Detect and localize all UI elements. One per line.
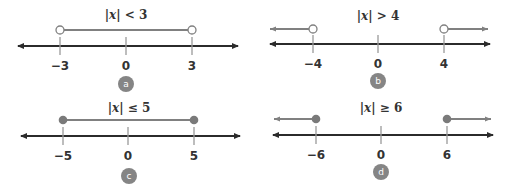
tick-label: 0 xyxy=(122,59,130,73)
badge-label-a: a xyxy=(123,79,129,89)
panel-d: |x| ≥ 6 −6 0 6 d xyxy=(273,101,493,180)
closed-endpoint-icon xyxy=(443,115,452,124)
panel-b: |x| > 4 −4 0 4 b xyxy=(270,9,490,89)
inequality-title-a: |x| < 3 xyxy=(105,8,148,22)
badge-label-d: d xyxy=(378,167,384,177)
closed-endpoint-icon xyxy=(59,116,68,125)
badge-label-b: b xyxy=(375,76,381,86)
inequality-title-b: |x| > 4 xyxy=(357,9,400,23)
absolute-value-inequalities-diagram: |x| < 3 −3 0 3 a |x| > 4 −4 0 4 b |x| ≤ … xyxy=(0,0,509,193)
panel-c: |x| ≤ 5 −5 0 5 c xyxy=(21,101,240,184)
open-endpoint-icon xyxy=(188,26,196,34)
badge-label-c: c xyxy=(127,171,132,181)
tick-label: 4 xyxy=(440,57,448,71)
inequality-title-d: |x| ≥ 6 xyxy=(360,101,403,115)
tick-label: 0 xyxy=(374,57,382,71)
tick-label: −3 xyxy=(51,59,69,73)
closed-endpoint-icon xyxy=(190,116,199,125)
tick-label: 5 xyxy=(190,149,198,163)
tick-label: −4 xyxy=(304,57,322,71)
closed-endpoint-icon xyxy=(312,115,321,124)
panel-a: |x| < 3 −3 0 3 a xyxy=(18,8,238,92)
tick-label: −6 xyxy=(307,148,325,162)
open-endpoint-icon xyxy=(56,26,64,34)
tick-label: 0 xyxy=(377,148,385,162)
open-endpoint-icon xyxy=(440,25,448,33)
tick-label: 6 xyxy=(443,148,451,162)
open-endpoint-icon xyxy=(309,25,317,33)
tick-label: −5 xyxy=(54,149,72,163)
inequality-title-c: |x| ≤ 5 xyxy=(108,101,151,115)
tick-label: 3 xyxy=(188,59,196,73)
tick-label: 0 xyxy=(124,149,132,163)
